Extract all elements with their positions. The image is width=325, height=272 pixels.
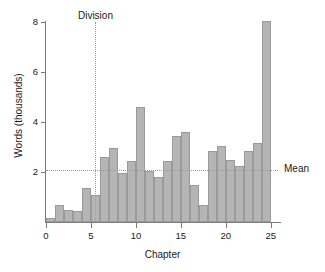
x-tick-mark bbox=[136, 223, 137, 228]
x-tick-mark bbox=[91, 223, 92, 228]
bar bbox=[199, 205, 208, 223]
bar bbox=[253, 143, 262, 222]
bar bbox=[136, 107, 145, 222]
y-axis-title: Words (thousands) bbox=[13, 46, 24, 186]
x-tick-label: 20 bbox=[214, 230, 238, 241]
bar bbox=[235, 166, 244, 222]
bar bbox=[154, 177, 163, 222]
x-tick-label: 10 bbox=[124, 230, 148, 241]
x-tick-mark bbox=[181, 223, 182, 228]
bar bbox=[118, 173, 127, 222]
bar bbox=[190, 185, 199, 223]
mean-reference-line bbox=[46, 170, 278, 171]
plot-area bbox=[46, 22, 278, 222]
bar bbox=[46, 218, 55, 222]
bar bbox=[82, 188, 91, 222]
bar bbox=[181, 132, 190, 222]
mean-annotation-label: Mean bbox=[284, 163, 309, 174]
x-tick-mark bbox=[271, 223, 272, 228]
x-tick-mark bbox=[226, 223, 227, 228]
bar bbox=[64, 210, 73, 223]
chart-figure: 2468 0510152025 Mean Division Chapter Wo… bbox=[0, 0, 325, 272]
bar bbox=[262, 21, 271, 222]
x-tick-label: 15 bbox=[169, 230, 193, 241]
division-reference-line bbox=[95, 22, 96, 222]
x-axis-title: Chapter bbox=[0, 249, 325, 260]
bar bbox=[172, 136, 181, 222]
bar bbox=[145, 171, 154, 222]
division-annotation-label: Division bbox=[78, 10, 113, 21]
bar bbox=[100, 157, 109, 222]
y-tick-label: 8 bbox=[18, 16, 38, 27]
bar bbox=[55, 205, 64, 223]
bar bbox=[208, 151, 217, 222]
bar bbox=[73, 211, 82, 222]
x-tick-label: 25 bbox=[259, 230, 283, 241]
bar bbox=[109, 148, 118, 222]
x-tick-mark bbox=[46, 223, 47, 228]
x-axis-line bbox=[45, 222, 281, 223]
x-tick-label: 5 bbox=[79, 230, 103, 241]
bar bbox=[217, 146, 226, 222]
x-tick-label: 0 bbox=[34, 230, 58, 241]
bar bbox=[244, 151, 253, 222]
